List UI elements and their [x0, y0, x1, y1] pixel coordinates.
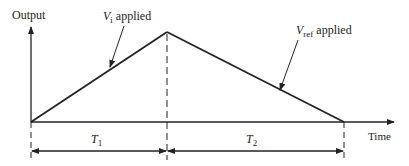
vref-applied-label: Vref applied	[296, 24, 352, 39]
y-axis-label: Output	[12, 9, 45, 21]
deintegration-ramp-down	[167, 32, 344, 122]
t1-label: T1	[91, 133, 102, 148]
vi-applied-label: Vi applied	[103, 10, 151, 25]
dual-slope-diagram: Output Time Vi applied Vref applied T1 T…	[0, 0, 409, 166]
vref-leader-arrow	[280, 40, 298, 90]
x-axis-label: Time	[368, 131, 391, 142]
t2-label: T2	[246, 133, 257, 148]
integration-ramp-up	[31, 32, 167, 122]
